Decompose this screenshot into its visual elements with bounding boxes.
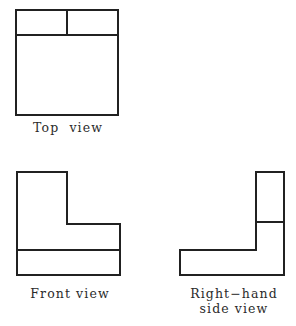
- side-view-label-line2: side view: [200, 301, 269, 316]
- orthographic-projection-drawing: [0, 0, 296, 326]
- right-hand-side-view-label: Right−handside view: [172, 286, 296, 316]
- front-view-group: [17, 172, 120, 275]
- right-hand-side-view-outline: [180, 172, 284, 275]
- top-view-group: [16, 10, 118, 115]
- front-view-label: Front view: [0, 286, 140, 301]
- top-view-label: Top view: [0, 120, 136, 135]
- right-hand-side-view-group: [180, 172, 284, 275]
- side-view-label-line1: Right−hand: [190, 286, 278, 301]
- front-view-outline: [17, 172, 120, 275]
